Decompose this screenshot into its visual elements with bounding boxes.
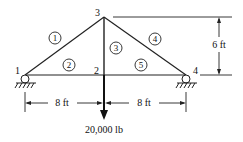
member-label-3: 3 [114, 43, 119, 53]
member-label-5: 5 [139, 60, 144, 70]
truss-diagram: 1 2 3 4 1 2 3 4 5 8 ft 8 ft [0, 0, 243, 142]
member-label-4: 4 [153, 34, 158, 44]
node-label-2: 2 [94, 65, 99, 76]
dimension-height: 6 ft [212, 39, 226, 50]
support-node-1 [15, 75, 36, 88]
load-label: 20,000 lb [85, 124, 123, 135]
node-label-4: 4 [193, 65, 198, 76]
support-node-4 [176, 75, 197, 88]
member-label-2: 2 [67, 60, 72, 70]
node-label-1: 1 [15, 65, 20, 76]
member-label-1: 1 [53, 33, 58, 43]
dimension-right-span: 8 ft [137, 97, 151, 108]
roller-icon [21, 75, 29, 83]
dimension-left-span: 8 ft [55, 97, 69, 108]
node-label-3: 3 [95, 7, 100, 18]
roller-icon [182, 75, 190, 83]
load-arrow-head [100, 110, 108, 120]
